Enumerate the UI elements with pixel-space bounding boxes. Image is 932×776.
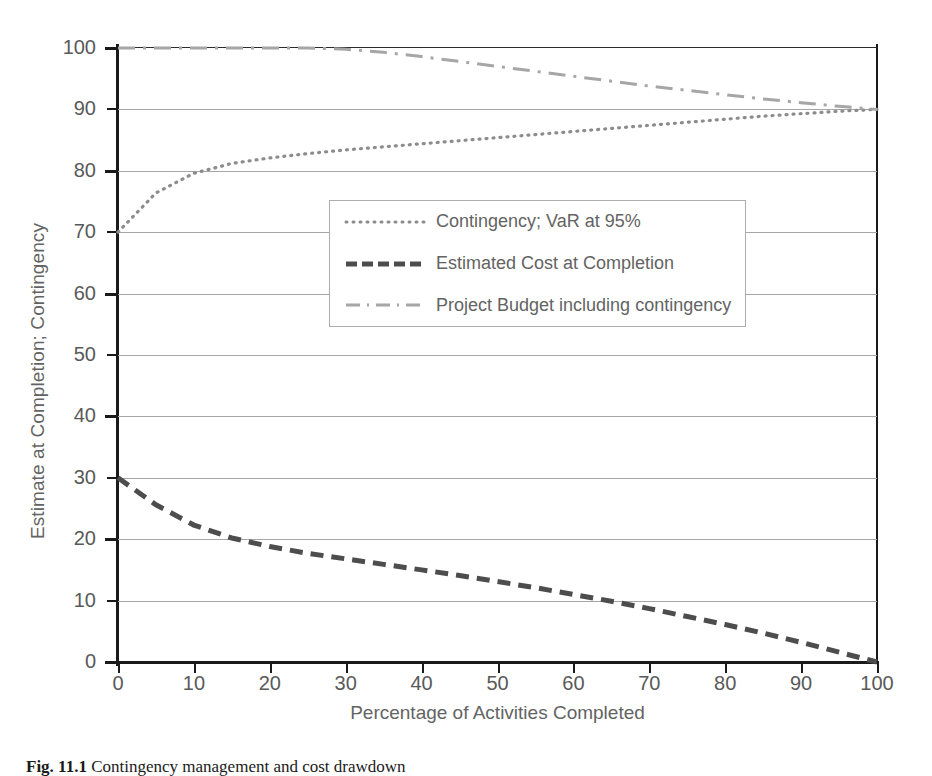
- x-tick-label: 90: [771, 672, 831, 695]
- legend-key-dotted-icon: [344, 215, 428, 229]
- x-tick-label: 100: [847, 672, 907, 695]
- y-tick: [107, 354, 118, 356]
- x-tick-label: 20: [240, 672, 300, 695]
- legend-item-estimated-cost: Estimated Cost at Completion: [330, 243, 745, 285]
- x-tick-label: 70: [619, 672, 679, 695]
- y-tick-label: 100: [36, 37, 96, 57]
- x-tick-label: 80: [695, 672, 755, 695]
- legend-label-contingency: Contingency; VaR at 95%: [436, 211, 641, 232]
- y-tick-label: 40: [36, 405, 96, 425]
- legend-key-dash-dot-icon: [344, 298, 428, 312]
- x-tick-label: 0: [88, 672, 148, 695]
- series-line: [118, 48, 877, 109]
- x-tick-label: 50: [468, 672, 528, 695]
- y-tick: [105, 293, 118, 296]
- y-tick-label: 20: [36, 528, 96, 548]
- figure-container: Estimate at Completion; Contingency Perc…: [0, 0, 932, 776]
- y-tick: [107, 477, 118, 479]
- figure-caption: Fig. 11.1 Contingency management and cos…: [26, 757, 926, 776]
- y-tick: [105, 538, 118, 541]
- y-tick-label: 80: [36, 160, 96, 180]
- x-axis-title: Percentage of Activities Completed: [118, 702, 877, 724]
- y-tick: [107, 231, 118, 233]
- legend-key-dashed-icon: [344, 257, 428, 271]
- legend-label-project-budget: Project Budget including contingency: [436, 295, 731, 316]
- figure-caption-label: Fig. 11.1: [26, 757, 87, 776]
- x-tick-label: 40: [392, 672, 452, 695]
- y-tick-label: 10: [36, 590, 96, 610]
- legend-label-estimated-cost: Estimated Cost at Completion: [436, 253, 674, 274]
- y-tick: [105, 47, 118, 50]
- y-tick-label: 60: [36, 283, 96, 303]
- chart-legend: Contingency; VaR at 95% Estimated Cost a…: [329, 200, 746, 327]
- x-tick-label: 60: [543, 672, 603, 695]
- y-tick: [107, 600, 118, 602]
- plot-area: 0102030405060708090100 01020304050607080…: [118, 48, 877, 662]
- legend-item-project-budget: Project Budget including contingency: [330, 284, 745, 326]
- y-tick-label: 50: [36, 344, 96, 364]
- figure-caption-text: Contingency management and cost drawdown: [91, 757, 405, 776]
- legend-item-contingency: Contingency; VaR at 95%: [330, 201, 745, 243]
- y-tick: [105, 661, 118, 664]
- y-tick-label: 30: [36, 467, 96, 487]
- y-tick-label: 0: [36, 651, 96, 671]
- y-tick: [105, 415, 118, 418]
- y-tick: [105, 170, 118, 173]
- y-tick-label: 70: [36, 221, 96, 241]
- y-tick: [107, 108, 118, 110]
- y-tick-label: 90: [36, 98, 96, 118]
- data-series-layer: [118, 48, 877, 662]
- series-line: [118, 478, 877, 662]
- x-tick-label: 10: [164, 672, 224, 695]
- x-tick-label: 30: [316, 672, 376, 695]
